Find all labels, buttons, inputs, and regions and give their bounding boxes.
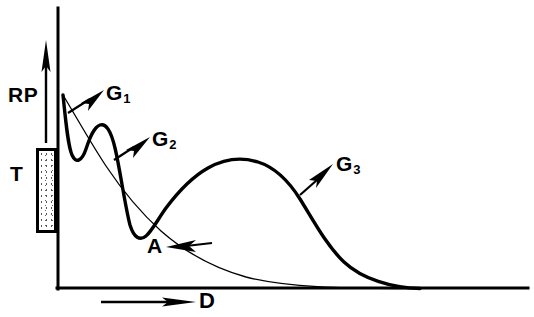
- g1-subscript: 1: [123, 91, 130, 106]
- annotation-arrow-g1: [68, 90, 104, 113]
- x-axis-arrow: [101, 298, 196, 307]
- stipple-fill: [39, 151, 54, 230]
- threshold-label: T: [10, 163, 23, 184]
- y-axis-arrow: [42, 40, 51, 143]
- g2-base: G: [152, 127, 168, 150]
- annotation-arrow-g2: [114, 137, 150, 160]
- g2-subscript: 2: [169, 137, 176, 152]
- annotation-arrow-g3: [300, 164, 333, 195]
- annotation-label-g3: G3: [336, 153, 360, 174]
- y-axis-label: RP: [8, 84, 38, 105]
- plot-canvas: [0, 0, 534, 317]
- annotation-arrow-a: [166, 240, 212, 252]
- g1-base: G: [106, 81, 122, 104]
- figure-panel: RP T D A G1 G2 G3: [0, 0, 534, 317]
- axis-group: [57, 8, 528, 289]
- g2-arrow-icon: [126, 137, 150, 158]
- g3-base: G: [336, 152, 352, 175]
- g3-subscript: 3: [353, 162, 360, 177]
- g3-arrow-shaft: [300, 180, 317, 195]
- annotation-label-g1: G1: [106, 82, 130, 103]
- annotation-label-g2: G2: [152, 128, 176, 149]
- annotation-label-a: A: [147, 235, 162, 256]
- curve-g-oscillating: [63, 95, 420, 289]
- x-axis-label: D: [199, 290, 215, 312]
- g1-arrow-icon: [81, 90, 104, 111]
- curve-a-decay: [63, 95, 420, 289]
- threshold-swatch: [36, 148, 57, 233]
